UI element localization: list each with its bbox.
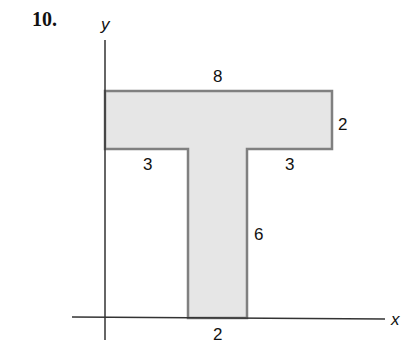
dimension-right-overhang: 3 xyxy=(285,155,294,174)
dimension-top-height: 2 xyxy=(338,115,347,134)
dimension-stem-height: 6 xyxy=(254,225,263,244)
y-axis-label: y xyxy=(100,15,111,34)
t-shape-diagram: y x 8 2 3 3 6 2 xyxy=(0,0,414,350)
t-shape-region xyxy=(105,91,332,318)
dimension-top-width: 8 xyxy=(213,67,222,86)
dimension-left-overhang: 3 xyxy=(143,155,152,174)
dimension-stem-width: 2 xyxy=(213,325,222,344)
x-axis-label: x xyxy=(390,310,400,329)
x-axis xyxy=(72,317,385,319)
